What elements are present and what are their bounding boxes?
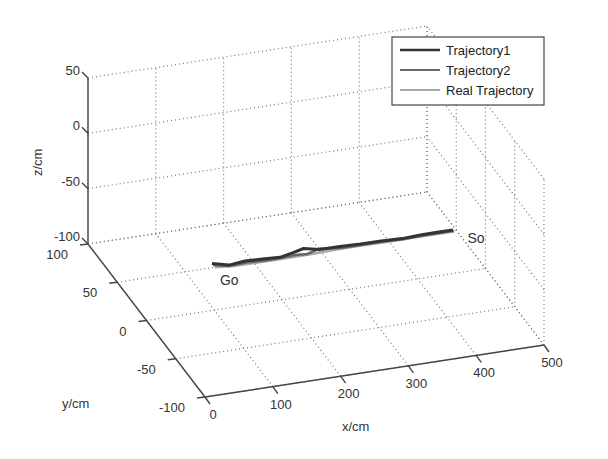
annotation-go: Go — [220, 272, 239, 288]
x-tick-mark — [341, 376, 346, 383]
floor-gridline-x — [291, 213, 408, 366]
y-tick-mark — [139, 321, 147, 322]
series-line-trajectory1 — [212, 230, 453, 265]
x-tick-label: 100 — [270, 397, 292, 412]
z-tick-label: -100 — [54, 229, 80, 244]
z-tick-mark — [82, 183, 88, 189]
x-tick-label: 300 — [406, 376, 428, 391]
floor-gridline-y — [88, 192, 427, 244]
annotation-so: So — [468, 230, 485, 246]
right-wall-gridline-z — [427, 192, 544, 345]
x-tick-mark — [408, 366, 413, 373]
series-layer — [212, 230, 454, 267]
back-wall-gridline-z — [88, 26, 427, 78]
x-tick-mark — [273, 387, 278, 394]
legend: Trajectory1 Trajectory2 Real Trajectory — [392, 37, 544, 105]
z-tick-label: -50 — [61, 174, 80, 189]
y-tick-mark — [197, 397, 205, 398]
x-tick-mark — [544, 345, 549, 352]
y-tick-label: -100 — [159, 400, 185, 415]
legend-label-trajectory1: Trajectory1 — [446, 43, 511, 58]
chart-3d-trajectory: 0100200300400500-100-50050100-100-50050 … — [0, 0, 608, 459]
y-tick-mark — [109, 282, 117, 283]
x-tick-mark — [205, 397, 210, 404]
y-tick-mark — [168, 359, 176, 360]
z-tick-label: 0 — [73, 118, 80, 133]
y-tick-mark — [80, 244, 88, 245]
x-tick-label: 400 — [473, 365, 495, 380]
tick-label-layer: 0100200300400500-100-50050100-100-50050 — [46, 63, 563, 422]
z-axis-label: z/cm — [30, 149, 45, 176]
x-tick-label: 200 — [338, 386, 360, 401]
z-tick-mark — [82, 72, 88, 78]
legend-label-real-trajectory: Real Trajectory — [446, 83, 534, 98]
floor-gridline-y — [147, 269, 486, 321]
y-tick-label: -50 — [137, 362, 156, 377]
x-tick-label: 0 — [209, 407, 216, 422]
floor-gridline-y — [176, 307, 515, 359]
back-wall-gridline-z — [88, 81, 427, 133]
y-tick-label: 50 — [83, 285, 97, 300]
legend-label-trajectory2: Trajectory2 — [446, 63, 511, 78]
z-tick-mark — [82, 127, 88, 133]
floor-gridline-x — [359, 202, 476, 355]
y-tick-label: 0 — [119, 324, 126, 339]
x-tick-label: 500 — [541, 355, 563, 370]
back-wall-gridline-z — [88, 137, 427, 189]
floor-gridline-x — [224, 223, 341, 376]
x-tick-mark — [476, 355, 481, 362]
z-tick-label: 50 — [66, 63, 80, 78]
x-axis-label: x/cm — [342, 419, 369, 434]
y-tick-label: 100 — [46, 247, 68, 262]
y-axis-label: y/cm — [62, 396, 89, 411]
z-tick-mark — [82, 238, 88, 244]
back-wall-gridline-z — [88, 192, 427, 244]
